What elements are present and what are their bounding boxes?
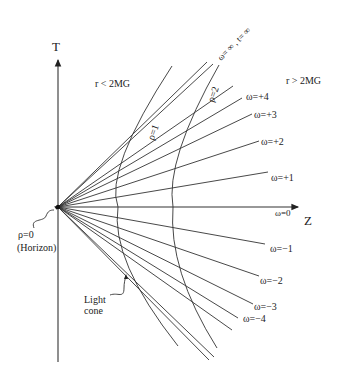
omega-line-plus1 <box>58 172 268 207</box>
light-cone-pointer <box>110 276 126 295</box>
region-outside-label: r > 2MG <box>286 76 321 86</box>
horizon-pointer <box>33 210 54 228</box>
origin-rho-label: ρ=0 <box>18 230 34 240</box>
omega-line-plus4 <box>58 98 242 207</box>
light-cone-label-line1: Light <box>84 295 106 305</box>
omega-plus4-label: ω=+4 <box>246 92 269 102</box>
light-cone-label-line2: cone <box>84 306 103 316</box>
rindler-diagram: T Z r < 2MG r > 2MG ρ=0 (Horizon) Light … <box>0 0 340 382</box>
omega-line-minus3 <box>58 207 253 304</box>
origin-horizon-label: (Horizon) <box>17 243 56 253</box>
omega-line-plus2 <box>58 141 259 207</box>
rho-1-curve <box>116 66 178 346</box>
light-cone-upper-b <box>58 64 213 207</box>
t-axis-label: T <box>52 40 60 53</box>
omega-minus3-label: ω=−3 <box>254 302 277 312</box>
diagram-canvas <box>0 0 340 382</box>
region-inside-label: r < 2MG <box>95 79 130 89</box>
omega-plus2-label: ω=+2 <box>261 137 284 147</box>
omega-zero-label: ω=0 <box>275 209 291 218</box>
omega-line-minus2 <box>58 207 259 276</box>
omega-plus1-label: ω=+1 <box>271 173 294 183</box>
omega-minus4-label: ω=−4 <box>243 314 266 324</box>
omega-plus3-label: ω=+3 <box>254 110 277 120</box>
omega-minus1-label: ω=−1 <box>270 244 293 254</box>
omega-line-extra-upper <box>58 86 233 207</box>
omega-minus2-label: ω=−2 <box>260 276 283 286</box>
z-axis-label: Z <box>304 214 312 227</box>
